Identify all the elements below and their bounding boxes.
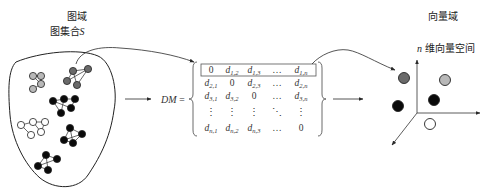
graph-node [71,95,78,102]
matrix-cell: d3,1 [205,91,218,102]
graph-node [27,131,34,138]
vector-space-label: n 维向量空间 [417,42,475,54]
matrix-cell: d1,n [295,65,308,76]
graph-node [69,139,76,146]
matrix-cell: d2,1 [205,78,218,89]
matrix-cell: 0 [299,123,304,133]
graph-node [73,81,80,88]
graph-node [42,151,49,158]
graph-node [57,109,64,116]
matrix-cell: … [272,123,282,133]
graph-node [37,80,44,87]
graph-node [49,97,56,104]
graph-node [78,130,85,137]
matrix-cell: ⋱ [272,107,282,117]
matrix-cell: ⋮ [249,107,259,117]
graph-node [66,124,73,131]
diagram-canvas: 图域 图集合S DM= 0d1,2d1,3…d1,nd2,10d2,3…d2,n… [0,0,489,196]
graph-node [37,72,44,79]
matrix-cell: … [272,78,282,88]
matrix-cell: … [272,65,282,75]
graph-node [69,67,76,74]
graph-node [63,77,70,84]
matrix-cell: d2,3 [248,78,262,89]
matrix-cell: ⋮ [227,107,237,117]
graph-node [67,104,74,111]
matrix-cell: d1,2 [226,65,240,76]
graph-domain-title: 图域 [67,10,87,22]
graph-node [60,136,67,143]
graph-domain-region [9,52,115,187]
matrix-cell: … [272,91,282,101]
dm-label: DM= [160,94,185,105]
graph-2 [63,65,91,88]
graph-node [60,95,67,102]
graph-5 [60,124,85,146]
matrix-cell: ⋮ [296,107,306,117]
graph-node [53,155,60,162]
vector-domain-title: 向量域 [428,10,458,22]
vector-point [425,119,436,130]
matrix-right-brace [318,62,326,136]
matrix-cell: ⋮ [206,107,216,117]
vector-point [399,73,410,84]
matrix-cell: dn,1 [205,123,218,134]
vector-point [440,75,451,86]
vector-point [393,101,404,112]
graph-node [84,65,91,72]
graph-node [17,121,24,128]
graph-6 [34,151,60,173]
matrix-cell: 0 [252,91,257,101]
vector-points [393,73,451,130]
graph-1 [29,72,44,92]
graph-node [44,166,51,173]
matrix-cell: d3,n [295,91,308,102]
distance-matrix: 0d1,2d1,3…d1,nd2,10d2,3…d2,nd3,1d3,20…d3… [205,65,308,134]
graph-3 [49,95,78,116]
matrix-cell: d1,3 [248,65,262,76]
graph-node [37,128,44,135]
matrix-left-brace [189,62,197,136]
matrix-cell: 0 [209,65,214,75]
graph-node [29,72,36,79]
row-to-point-arrow [312,50,395,70]
z-axis [392,113,417,145]
graph-set [17,65,91,173]
vector-point [429,95,440,106]
matrix-cell: dn,3 [248,123,262,134]
graph-set-label: 图集合S [50,25,85,37]
graph-node [29,85,36,92]
graph-node [41,118,48,125]
matrix-cell: d2,n [295,78,308,89]
matrix-cell: dn,2 [226,123,240,134]
matrix-cell: d3,2 [226,91,240,102]
graph-node [34,162,41,169]
matrix-cell: 0 [230,78,235,88]
graph-4 [17,118,48,138]
row-arrow [76,48,194,64]
graph-node [29,118,36,125]
